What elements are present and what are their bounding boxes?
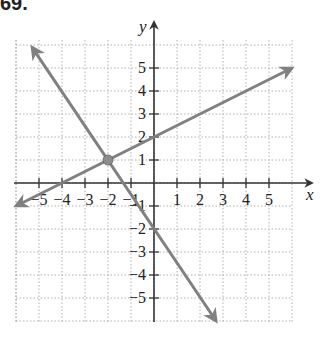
x-tick-label: −4 xyxy=(53,191,70,208)
y-tick-label: −5 xyxy=(129,289,146,306)
intersection-point xyxy=(103,155,113,165)
x-tick-label: −3 xyxy=(76,191,93,208)
y-tick-label: 1 xyxy=(138,151,146,168)
x-tick-label: 1 xyxy=(173,191,181,208)
y-tick-label: −2 xyxy=(129,220,146,237)
y-tick-label: 5 xyxy=(138,59,146,76)
x-tick-label: 2 xyxy=(196,191,204,208)
axes xyxy=(14,22,312,322)
x-tick-label: 5 xyxy=(265,191,273,208)
y-tick-label: −3 xyxy=(129,243,146,260)
y-tick-label: −4 xyxy=(129,266,146,283)
x-axis-label: x xyxy=(305,185,314,204)
coordinate-plane: −5−4−3−2−112345−5−4−3−2−112345 x y xyxy=(0,0,325,344)
x-tick-label: 4 xyxy=(242,191,250,208)
y-tick-label: 4 xyxy=(138,82,146,99)
y-axis-label: y xyxy=(137,17,147,36)
x-tick-label: 3 xyxy=(219,191,227,208)
x-tick-label: −2 xyxy=(99,191,116,208)
y-tick-label: 3 xyxy=(138,105,146,122)
intersection-point xyxy=(103,155,113,165)
